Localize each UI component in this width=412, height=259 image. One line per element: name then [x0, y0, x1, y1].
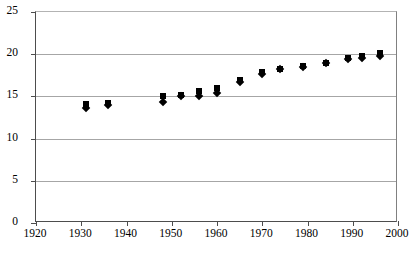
x-tick-label-1950: 1950 [159, 228, 182, 240]
x-tick-label-1990: 1990 [340, 228, 363, 240]
x-tick-1970 [262, 221, 263, 226]
y-tick-label-25: 25 [7, 5, 19, 17]
y-tick-15 [31, 96, 36, 97]
x-tick-1980 [308, 221, 309, 226]
y-axis-labels: 0510152025 [0, 0, 31, 259]
x-tick-label-1960: 1960 [205, 228, 228, 240]
x-tick-label-1930: 1930 [69, 228, 92, 240]
x-tick-label-1970: 1970 [250, 228, 273, 240]
chart-root: 0510152025 19201930194019501960197019801… [0, 0, 412, 259]
x-tick-label-1980: 1980 [295, 228, 318, 240]
x-tick-1950 [172, 221, 173, 226]
x-tick-1960 [217, 221, 218, 226]
data-point-diamond-1948 [158, 98, 166, 106]
y-tick-5 [31, 181, 36, 182]
x-tick-label-1920: 1920 [24, 228, 47, 240]
y-tick-20 [31, 54, 36, 55]
x-tick-1930 [81, 221, 82, 226]
y-tick-label-0: 0 [12, 216, 18, 228]
x-tick-label-2000: 2000 [386, 228, 409, 240]
data-point-diamond-1984 [321, 59, 329, 67]
y-tick-25 [31, 12, 36, 13]
x-axis-labels: 192019301940195019601970198019902000 [0, 228, 412, 248]
y-tick-label-15: 15 [7, 89, 19, 101]
y-tick-label-10: 10 [7, 132, 19, 144]
x-tick-2000 [398, 221, 399, 226]
y-tick-10 [31, 139, 36, 140]
plot-area [35, 11, 397, 222]
x-tick-label-1940: 1940 [114, 228, 137, 240]
x-tick-1920 [36, 221, 37, 226]
gridline-y-5 [36, 181, 396, 182]
x-tick-1940 [127, 221, 128, 226]
y-tick-label-5: 5 [12, 174, 18, 186]
gridline-y-10 [36, 139, 396, 140]
gridline-y-20 [36, 54, 396, 55]
y-tick-label-20: 20 [7, 47, 19, 59]
x-tick-1990 [353, 221, 354, 226]
